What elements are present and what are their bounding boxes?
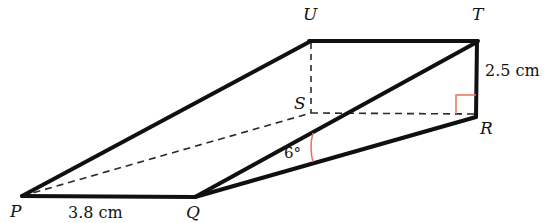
angle-label-6deg: 6° <box>284 146 301 161</box>
vertex-label-R: R <box>480 120 493 137</box>
geometry-figure: P Q R S T U 3.8 cm 2.5 cm 6° <box>0 0 557 223</box>
vertex-label-Q: Q <box>186 204 200 221</box>
height-label: 2.5 cm <box>485 63 540 79</box>
diagram-canvas <box>0 0 557 223</box>
edge-P-U <box>22 41 311 196</box>
edge-Q-T <box>195 42 477 197</box>
edge-S-R-dashed <box>311 113 476 114</box>
angle-arc-6deg <box>311 133 313 162</box>
edge-P-S-dashed <box>22 113 311 196</box>
edge-T-R <box>476 41 477 117</box>
vertex-label-U: U <box>303 6 317 23</box>
dashed-edge-group <box>22 43 476 196</box>
vertex-label-T: T <box>472 6 483 23</box>
edge-Q-R <box>195 117 476 197</box>
right-angle-mark <box>456 95 476 114</box>
solid-edge-group <box>22 41 478 197</box>
base-length-label: 3.8 cm <box>68 205 123 221</box>
vertex-label-S: S <box>294 95 306 112</box>
edge-P-Q <box>22 196 195 197</box>
vertex-label-P: P <box>10 203 21 220</box>
